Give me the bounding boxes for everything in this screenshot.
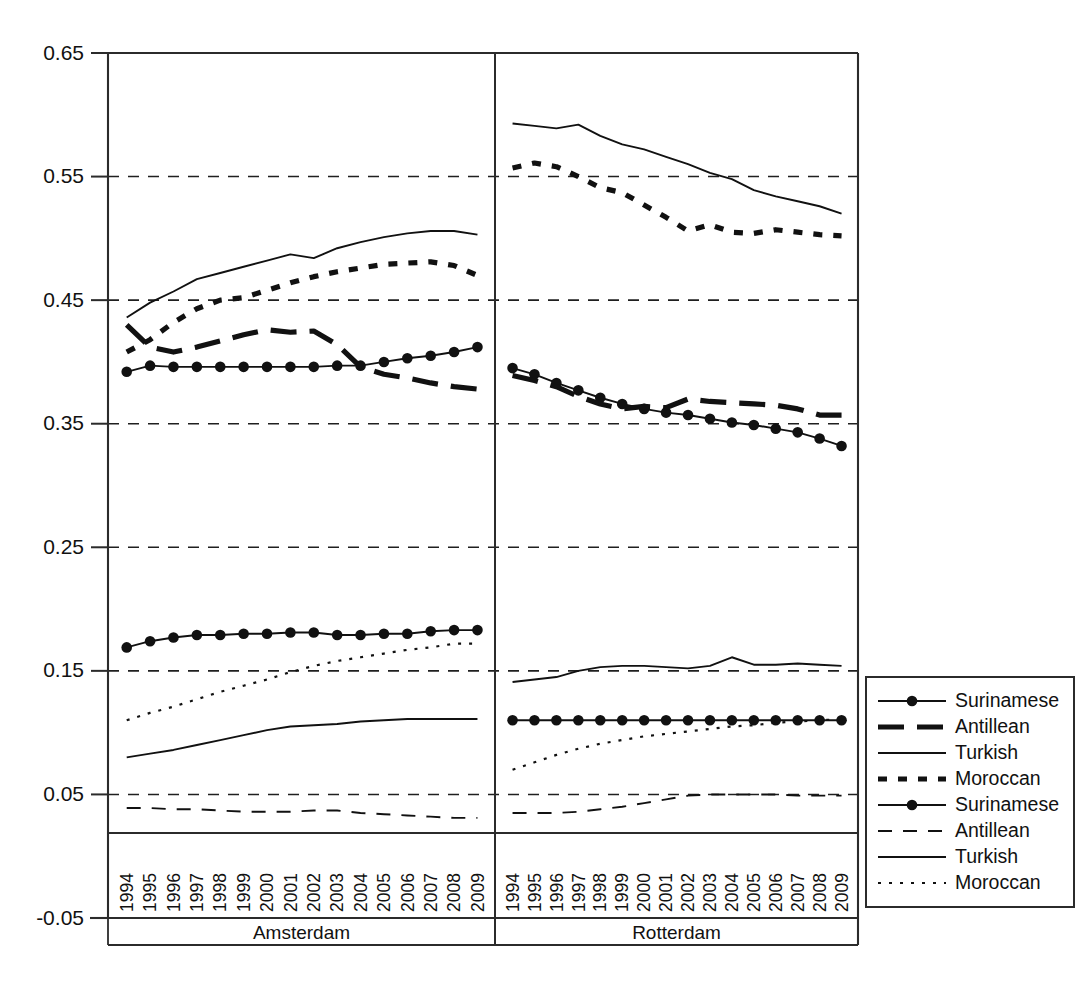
x-axis-tick-label-2002: 2002 <box>678 873 698 912</box>
legend-marker-dot <box>907 800 918 811</box>
data-point-marker <box>792 427 803 438</box>
x-axis-tick-label-2009: 2009 <box>832 873 852 912</box>
data-point-marker <box>238 362 249 373</box>
x-axis-tick-label-2000: 2000 <box>257 873 277 912</box>
series-line-turkish-lower <box>127 719 478 757</box>
data-point-marker <box>308 627 319 638</box>
series-line-turkish-upper <box>127 231 478 318</box>
data-point-marker <box>639 715 650 726</box>
data-point-marker <box>661 715 672 726</box>
x-axis-tick-label-2001: 2001 <box>281 873 301 912</box>
x-axis-tick-label-1996: 1996 <box>164 873 184 912</box>
data-point-marker <box>792 715 803 726</box>
data-point-marker <box>402 628 413 639</box>
y-axis-tick-label: 0.55 <box>43 164 84 187</box>
legend-label-surinamese-0: Surinamese <box>955 689 1059 711</box>
data-point-marker <box>727 715 738 726</box>
data-point-marker <box>770 423 781 434</box>
x-axis-tick-label-2006: 2006 <box>398 873 418 912</box>
x-axis-tick-label-2003: 2003 <box>700 873 720 912</box>
data-point-marker <box>402 353 413 364</box>
x-axis-tick-label-1996: 1996 <box>547 873 567 912</box>
series-line-moroccan-lower <box>513 719 842 770</box>
data-point-marker <box>192 362 203 373</box>
data-point-marker <box>814 433 825 444</box>
plot-frame <box>90 53 858 945</box>
x-axis-tick-label-1999: 1999 <box>234 873 254 912</box>
data-point-marker <box>507 715 518 726</box>
data-point-marker <box>355 630 366 641</box>
y-axis: 0.650.550.450.350.250.150.05-0.05 <box>36 41 108 929</box>
x-axis-tick-label-1994: 1994 <box>503 873 523 912</box>
y-axis-tick-label: 0.65 <box>43 41 84 64</box>
data-point-marker <box>472 625 483 636</box>
data-point-marker <box>379 357 390 368</box>
series-line-antillean-lower <box>513 794 842 813</box>
legend-marker-dot <box>907 696 918 707</box>
data-point-marker <box>551 715 562 726</box>
legend: SurinameseAntilleanTurkishMoroccanSurina… <box>866 677 1074 907</box>
chart-figure: 0.650.550.450.350.250.150.05-0.05Amsterd… <box>0 0 1086 981</box>
data-point-marker <box>121 367 132 378</box>
legend-label-turkish-2: Turkish <box>955 741 1018 763</box>
data-point-marker <box>215 630 226 641</box>
data-point-marker <box>836 441 847 452</box>
x-axis-tick-label-2005: 2005 <box>744 873 764 912</box>
data-point-marker <box>683 715 694 726</box>
series-line-turkish-lower <box>513 657 842 682</box>
y-axis-tick-label: 0.35 <box>43 411 84 434</box>
y-axis-tick-label: -0.05 <box>36 906 84 929</box>
panel-amsterdam: Amsterdam <box>121 231 482 943</box>
data-point-marker <box>168 362 179 373</box>
data-point-marker <box>425 626 436 637</box>
x-axis-tick-label-2006: 2006 <box>766 873 786 912</box>
legend-label-surinamese-4: Surinamese <box>955 793 1059 815</box>
data-point-marker <box>145 360 156 371</box>
legend-label-antillean-1: Antillean <box>955 715 1030 737</box>
data-point-marker <box>449 347 460 358</box>
data-point-marker <box>238 628 249 639</box>
x-axis-tick-label-2009: 2009 <box>468 873 488 912</box>
legend-label-moroccan-7: Moroccan <box>955 871 1041 893</box>
series-line-moroccan-lower <box>127 644 478 721</box>
series-line-antillean-lower <box>127 808 478 818</box>
data-point-marker <box>617 715 628 726</box>
data-point-marker <box>683 410 694 421</box>
x-axis-tick-label-1994: 1994 <box>117 873 137 912</box>
x-axis-tick-label-2007: 2007 <box>421 873 441 912</box>
data-point-marker <box>749 715 760 726</box>
data-point-marker <box>168 632 179 643</box>
x-axis-tick-label-2004: 2004 <box>351 873 371 912</box>
x-axis-rotterdam: 1994199519961997199819992000200120022003… <box>503 873 852 912</box>
x-axis-tick-label-1997: 1997 <box>569 873 589 912</box>
data-point-marker <box>215 362 226 373</box>
x-axis-tick-label-1995: 1995 <box>140 873 160 912</box>
x-axis-tick-label-2000: 2000 <box>634 873 654 912</box>
x-axis-tick-label-2002: 2002 <box>304 873 324 912</box>
panel-group-label-amsterdam: Amsterdam <box>253 922 350 943</box>
data-point-marker <box>749 420 760 431</box>
y-axis-tick-label: 0.45 <box>43 288 84 311</box>
x-axis-tick-label-2008: 2008 <box>810 873 830 912</box>
data-point-marker <box>379 628 390 639</box>
data-point-marker <box>507 363 518 374</box>
gridlines <box>108 177 858 795</box>
legend-label-antillean-5: Antillean <box>955 819 1030 841</box>
data-point-marker <box>332 360 343 371</box>
data-point-marker <box>308 362 319 373</box>
data-point-marker <box>192 630 203 641</box>
data-point-marker <box>285 627 296 638</box>
data-point-marker <box>121 642 132 653</box>
data-point-marker <box>332 630 343 641</box>
data-point-marker <box>595 715 606 726</box>
panel-group-label-rotterdam: Rotterdam <box>632 922 721 943</box>
legend-label-moroccan-3: Moroccan <box>955 767 1041 789</box>
series-line-moroccan-upper <box>127 262 478 352</box>
x-axis-tick-label-1995: 1995 <box>525 873 545 912</box>
series-line-antillean-upper <box>513 376 842 416</box>
x-axis-tick-label-2001: 2001 <box>656 873 676 912</box>
x-axis-amsterdam: 1994199519961997199819992000200120022003… <box>117 873 488 912</box>
data-point-marker <box>573 715 584 726</box>
data-point-marker <box>262 362 273 373</box>
x-axis-tick-label-1998: 1998 <box>210 873 230 912</box>
